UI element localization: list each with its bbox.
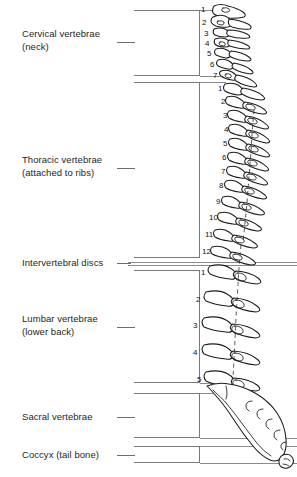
disc-rule-top [128,262,297,263]
label-thoracic-vertebrae: Thoracic vertebrae (attached to ribs) [22,154,134,179]
vertebra-number-thoracic-2: 2 [221,98,225,106]
vertebra-number-thoracic-12: 12 [202,248,211,256]
vertebra-number-thoracic-3: 3 [223,112,227,120]
bracket-lumbar [134,270,200,383]
label-lumbar-vertebrae: Lumbar vertebrae (lower back) [22,313,130,338]
sacral-rule-extension-top [200,393,240,394]
label-cervical-vertebrae: Cervical vertebrae (neck) [22,28,130,53]
label-sacral-vertebrae: Sacral vertebrae [22,411,130,424]
vertebra-number-thoracic-11: 11 [205,231,213,239]
vertebra-number-thoracic-4: 4 [224,126,228,134]
vertebra-number-cervical-1: 1 [201,6,205,14]
vertebra-number-thoracic-6: 6 [222,154,226,162]
sacrum-coccyx-drawing [207,383,294,468]
bracket-cervical [134,10,200,76]
vertebra-number-thoracic-5: 5 [223,140,227,148]
vertebra-number-lumbar-1: 1 [201,269,205,277]
vertebra-number-lumbar-2: 2 [196,296,200,304]
spine-diagram-figure: Cervical vertebrae (neck) Thoracic verte… [0,0,297,477]
vertebra-number-thoracic-8: 8 [219,182,223,190]
vertebra-number-cervical-7: 7 [213,72,217,80]
vertebra-number-lumbar-3: 3 [193,322,197,330]
label-coccyx: Coccyx (tail bone) [22,449,134,462]
bracket-sacral [134,393,200,438]
coccyx-rule-extension-top [200,446,297,447]
sacral-rule-extension [200,438,297,439]
bracket-thoracic [134,82,200,258]
vertebra-number-cervical-5: 5 [207,50,211,58]
vertebra-number-thoracic-1: 1 [218,85,222,93]
thoracic-segment-drawing [211,83,270,265]
vertebra-number-thoracic-10: 10 [209,214,218,222]
bracket-coccyx [134,446,200,463]
vertebra-number-cervical-6: 6 [210,61,214,69]
thoracic-rule-extension-top [200,82,226,83]
vertebra-number-lumbar-5: 5 [197,376,201,384]
vertebra-number-thoracic-7: 7 [221,168,225,176]
cervical-segment-drawing [211,5,257,88]
vertebra-number-cervical-3: 3 [204,30,208,38]
coccyx-rule-extension-bottom [200,463,297,464]
vertebra-number-cervical-2: 2 [202,19,206,27]
label-intervertebral-discs: Intervertebral discs [22,257,134,270]
lumbar-rule-extension [200,383,240,384]
vertebra-number-thoracic-9: 9 [216,198,220,206]
vertebra-number-cervical-4: 4 [205,40,209,48]
vertebra-number-lumbar-4: 4 [193,349,197,357]
disc-rule-bottom [128,265,297,266]
